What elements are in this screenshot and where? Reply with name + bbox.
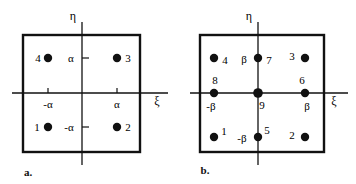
node-label-7-panel-b: 7: [266, 54, 272, 66]
node-dot-1-panel-a[interactable]: [44, 123, 52, 131]
node-dot-2-panel-b[interactable]: [301, 133, 309, 141]
panel-a: [12, 22, 168, 165]
tick-neg-alpha-x-label-a: -α: [43, 98, 52, 110]
node-dot-2-panel-a[interactable]: [113, 123, 121, 131]
node-label-9-panel-b: 9: [259, 99, 265, 111]
node-label-3-panel-a: 3: [125, 52, 131, 64]
tick-neg-alpha-y-label-a: -α: [64, 121, 73, 133]
node-dot-3-panel-b[interactable]: [301, 54, 309, 62]
panel-caption-a: a.: [24, 166, 32, 178]
node-label-2-panel-b: 2: [289, 129, 295, 141]
beta-top-label-b: β: [241, 53, 247, 65]
node-dot-3-panel-a[interactable]: [113, 54, 121, 62]
node-label-4-panel-a: 4: [35, 52, 41, 64]
node-label-6-panel-b: 6: [299, 74, 305, 86]
node-dot-4-panel-a[interactable]: [44, 54, 52, 62]
node-label-2-panel-a: 2: [125, 121, 131, 133]
node-dot-8-panel-b[interactable]: [210, 89, 218, 97]
node-dot-7-panel-b[interactable]: [254, 54, 262, 62]
node-dot-6-panel-b[interactable]: [301, 89, 309, 97]
node-dot-5-panel-b[interactable]: [254, 133, 262, 141]
node-label-4-panel-b: 4: [222, 54, 228, 66]
beta-right-label-b: β: [304, 100, 310, 112]
neg-beta-left-label-b: -β: [206, 100, 215, 112]
xi-axis-label-b: ξ: [331, 94, 336, 109]
node-dot-9-panel-b[interactable]: [253, 88, 263, 98]
panel-b: [190, 22, 348, 165]
node-label-5-panel-b: 5: [264, 124, 270, 136]
gauss-point-figure: ηξ-ααα-α4312a.ηξ473896152β-ββ-βb.: [0, 0, 356, 184]
xi-axis-label-a: ξ: [154, 94, 159, 109]
node-label-8-panel-b: 8: [212, 74, 218, 86]
tick-pos-alpha-x-label-a: α: [114, 98, 120, 110]
node-label-1-panel-a: 1: [34, 121, 40, 133]
eta-axis-label-b: η: [246, 9, 252, 24]
neg-beta-bottom-label-b: -β: [237, 132, 246, 144]
panel-caption-b: b.: [201, 164, 210, 176]
tick-pos-alpha-y-label-a: α: [68, 52, 74, 64]
node-dot-1-panel-b[interactable]: [210, 133, 218, 141]
node-dot-4-panel-b[interactable]: [210, 54, 218, 62]
node-label-3-panel-b: 3: [289, 50, 295, 62]
node-label-1-panel-b: 1: [221, 125, 227, 137]
figure-canvas: [0, 0, 356, 184]
eta-axis-label-a: η: [70, 9, 76, 24]
